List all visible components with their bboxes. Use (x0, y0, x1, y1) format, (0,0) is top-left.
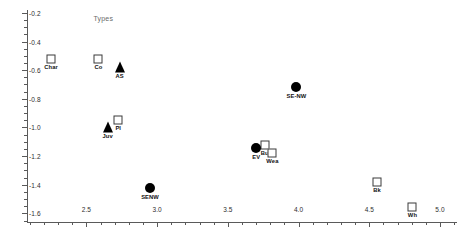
x-axis-minor-tick (101, 222, 102, 225)
y-axis-minor-tick (24, 92, 27, 93)
x-axis-minor-tick (412, 222, 413, 225)
x-axis-minor-tick (171, 222, 172, 225)
filled-triangle-marker-icon (103, 121, 113, 132)
y-axis-tick-label: -0.4 (29, 38, 41, 45)
filled-circle-marker-icon (145, 183, 155, 193)
y-axis-minor-tick (24, 192, 27, 193)
y-axis-line (27, 10, 28, 223)
x-axis-minor-tick (30, 222, 31, 225)
y-axis-minor-tick (24, 56, 27, 57)
x-axis-tick-label: 3.5 (223, 206, 232, 213)
y-axis-minor-tick (24, 142, 27, 143)
x-axis-minor-tick (426, 222, 427, 225)
types-annotation: Types (93, 15, 113, 22)
x-axis-minor-tick (383, 222, 384, 225)
x-axis-tick (440, 222, 441, 227)
y-axis-minor-tick (24, 135, 27, 136)
y-axis-tick (22, 185, 27, 186)
y-axis-tick-label: -1.6 (29, 210, 41, 217)
open-square-marker-icon (114, 116, 123, 125)
y-axis-tick-label: -0.2 (29, 9, 41, 16)
data-point-label: Wh (408, 212, 417, 218)
filled-circle-marker-icon (251, 143, 261, 153)
y-axis-tick-label: -0.6 (29, 67, 41, 74)
x-axis-minor-tick (398, 222, 399, 225)
y-axis-tick-label: -1.0 (29, 124, 41, 131)
x-axis-tick-label: 3.0 (152, 206, 161, 213)
data-point-label: Co (94, 64, 102, 70)
open-square-marker-icon (408, 202, 417, 211)
x-axis-tick (157, 222, 158, 227)
y-axis-minor-tick (24, 206, 27, 207)
x-axis-minor-tick (313, 222, 314, 225)
y-axis-minor-tick (24, 199, 27, 200)
x-axis-minor-tick (72, 222, 73, 225)
y-axis-tick (22, 42, 27, 43)
y-axis-minor-tick (24, 221, 27, 222)
data-point-label: EV (252, 154, 260, 160)
y-axis-minor-tick (24, 27, 27, 28)
filled-triangle-marker-icon (115, 61, 125, 72)
data-point-label: AS (116, 73, 124, 79)
plot-data-area: CharCoASSE-NWPlJuvBuEVWeaBkSENWWh (0, 0, 462, 241)
y-axis-minor-tick (24, 49, 27, 50)
x-axis-minor-tick (327, 222, 328, 225)
x-axis-minor-tick (355, 222, 356, 225)
x-axis-minor-tick (200, 222, 201, 225)
y-axis-minor-tick (24, 178, 27, 179)
x-axis-minor-tick (143, 222, 144, 225)
y-axis-minor-tick (24, 34, 27, 35)
y-axis-minor-tick (24, 20, 27, 21)
x-axis-minor-tick (454, 222, 455, 225)
data-point-label: SENW (141, 194, 159, 200)
data-point-label: Juv (102, 133, 112, 139)
y-axis-minor-tick (24, 106, 27, 107)
x-axis-minor-tick (129, 222, 130, 225)
x-axis-minor-tick (58, 222, 59, 225)
x-axis-minor-tick (185, 222, 186, 225)
y-axis-minor-tick (24, 163, 27, 164)
x-axis-tick (228, 222, 229, 227)
x-axis-tick-label: 2.5 (82, 206, 91, 213)
y-axis-tick (22, 70, 27, 71)
y-axis-tick-label: -1.2 (29, 153, 41, 160)
data-point-label: Bu (261, 150, 269, 156)
open-square-marker-icon (373, 177, 382, 186)
data-point-label: Char (44, 64, 58, 70)
x-axis-minor-tick (270, 222, 271, 225)
y-axis-minor-tick (24, 84, 27, 85)
x-axis-minor-tick (284, 222, 285, 225)
open-square-marker-icon (94, 55, 103, 64)
y-axis-minor-tick (24, 63, 27, 64)
x-axis-tick-label: 4.5 (365, 206, 374, 213)
y-axis-minor-tick (24, 120, 27, 121)
x-axis-minor-tick (341, 222, 342, 225)
x-axis-tick (86, 222, 87, 227)
filled-circle-marker-icon (291, 82, 301, 92)
y-axis-minor-tick (24, 170, 27, 171)
x-axis-minor-tick (214, 222, 215, 225)
x-axis-tick (299, 222, 300, 227)
y-axis-tick (22, 213, 27, 214)
open-square-marker-icon (268, 148, 277, 157)
x-axis-minor-tick (242, 222, 243, 225)
y-axis-tick-label: -0.8 (29, 95, 41, 102)
data-point-label: Bk (373, 187, 381, 193)
x-axis-tick (369, 222, 370, 227)
y-axis-tick-label: -1.4 (29, 181, 41, 188)
y-axis-tick (22, 13, 27, 14)
x-axis-minor-tick (256, 222, 257, 225)
x-axis-tick-label: 4.0 (294, 206, 303, 213)
y-axis-minor-tick (24, 113, 27, 114)
scatter-plot-figure: -0.2-0.4-0.6-0.8-1.0-1.2-1.4-1.6 2.53.03… (0, 0, 462, 241)
data-point-label: SE-NW (287, 93, 307, 99)
y-axis-tick (22, 127, 27, 128)
y-axis-tick (22, 99, 27, 100)
open-square-marker-icon (260, 140, 269, 149)
x-axis-minor-tick (44, 222, 45, 225)
data-point-label: Pl (115, 125, 121, 131)
open-square-marker-icon (47, 55, 56, 64)
y-axis-tick (22, 156, 27, 157)
y-axis-minor-tick (24, 149, 27, 150)
x-axis-tick-label: 5.0 (435, 206, 444, 213)
